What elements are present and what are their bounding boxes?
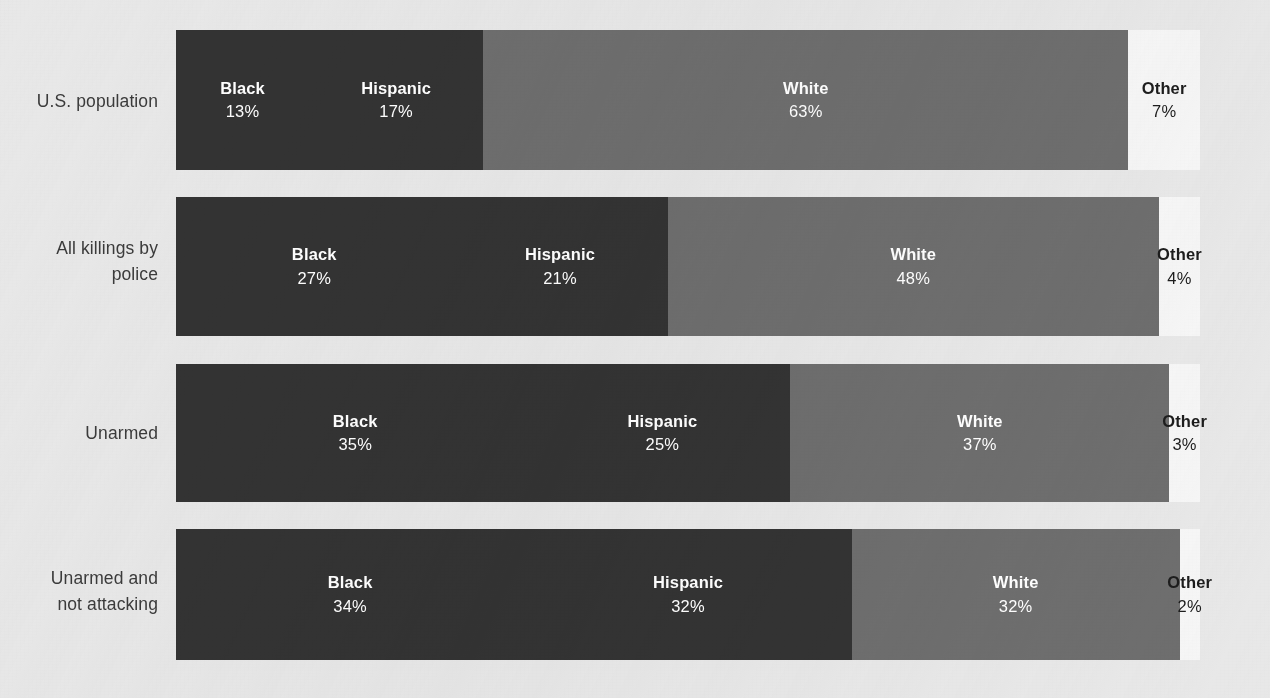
bar-segment-percent: 37% [963,434,997,455]
bar-segment-percent: 27% [297,268,331,289]
bar-segment-label-group: White32% [993,572,1039,616]
bar-segment-label-group: Other4% [1157,244,1202,288]
bar-segment-label-group: Black34% [328,572,373,616]
bar-segment-name: Other [1167,572,1212,593]
bar-segment-hispanic: Hispanic21% [452,197,667,336]
bar-segment-other: Other2% [1180,529,1200,660]
bar-segment-percent: 3% [1172,434,1196,455]
bar-segment-name: Black [333,411,378,432]
bar-segment-percent: 34% [333,596,367,617]
bar-segment-hispanic: Hispanic17% [309,30,483,170]
bar-segment-white: White32% [852,529,1180,660]
bar-segment-label-group: Black27% [292,244,337,288]
bar-segment-label-group: Hispanic21% [525,244,595,288]
bar-segment-name: Black [220,78,265,99]
bar-segment-white: White63% [483,30,1128,170]
bar-segment-label-group: White63% [783,78,829,122]
bar-track: Black34%Hispanic32%White32%Other2% [176,529,1200,660]
bar-row-label: Unarmed [0,420,158,446]
bar-segment-percent: 7% [1152,101,1176,122]
bar-track: Black35%Hispanic25%White37%Other3% [176,364,1200,502]
bar-segment-name: White [890,244,936,265]
stacked-bar-chart: U.S. populationBlack13%Hispanic17%White6… [0,0,1270,698]
bar-row: UnarmedBlack35%Hispanic25%White37%Other3… [0,364,1270,502]
bar-segment-black: Black27% [176,197,452,336]
bar-segment-label-group: Black13% [220,78,265,122]
bar-row-label: All killings by police [0,235,158,287]
bar-segment-black: Black34% [176,529,524,660]
bar-segment-name: Hispanic [653,572,723,593]
bar-segment-name: Hispanic [361,78,431,99]
bar-segment-name: Other [1157,244,1202,265]
bar-segment-label-group: White37% [957,411,1003,455]
bar-segment-percent: 35% [338,434,372,455]
bar-segment-percent: 2% [1178,596,1202,617]
bar-segment-other: Other7% [1128,30,1200,170]
bar-track: Black27%Hispanic21%White48%Other4% [176,197,1200,336]
bar-segment-percent: 48% [896,268,930,289]
bar-segment-name: Other [1162,411,1207,432]
bar-segment-other: Other4% [1159,197,1200,336]
bar-segment-label-group: Other7% [1142,78,1187,122]
bar-segment-white: White37% [790,364,1169,502]
bar-segment-label-group: Hispanic17% [361,78,431,122]
bar-segment-label-group: Other2% [1167,572,1212,616]
bar-row: Unarmed and not attackingBlack34%Hispani… [0,529,1270,660]
bar-segment-hispanic: Hispanic25% [534,364,790,502]
bar-segment-other: Other3% [1169,364,1200,502]
bar-segment-label-group: White48% [890,244,936,288]
bar-segment-label-group: Other3% [1162,411,1207,455]
bar-segment-percent: 32% [671,596,705,617]
bar-row-label: Unarmed and not attacking [0,565,158,617]
bar-segment-name: Black [328,572,373,593]
bar-segment-name: Hispanic [627,411,697,432]
bar-segment-black: Black35% [176,364,534,502]
bar-segment-percent: 63% [789,101,823,122]
bar-segment-percent: 17% [379,101,413,122]
bar-segment-black: Black13% [176,30,309,170]
bar-segment-label-group: Hispanic32% [653,572,723,616]
bar-segment-name: Hispanic [525,244,595,265]
bar-segment-white: White48% [668,197,1160,336]
bar-segment-name: White [957,411,1003,432]
bar-segment-name: Other [1142,78,1187,99]
bar-row: U.S. populationBlack13%Hispanic17%White6… [0,30,1270,170]
bar-segment-percent: 25% [646,434,680,455]
bar-segment-label-group: Black35% [333,411,378,455]
bar-track: Black13%Hispanic17%White63%Other7% [176,30,1200,170]
bar-segment-label-group: Hispanic25% [627,411,697,455]
bar-segment-hispanic: Hispanic32% [524,529,852,660]
bar-segment-percent: 21% [543,268,577,289]
bar-row-label: U.S. population [0,88,158,114]
bar-segment-percent: 4% [1167,268,1191,289]
bar-segment-name: Black [292,244,337,265]
bar-segment-percent: 13% [226,101,260,122]
bar-segment-name: White [783,78,829,99]
bar-segment-percent: 32% [999,596,1033,617]
bar-segment-name: White [993,572,1039,593]
bar-row: All killings by policeBlack27%Hispanic21… [0,197,1270,336]
